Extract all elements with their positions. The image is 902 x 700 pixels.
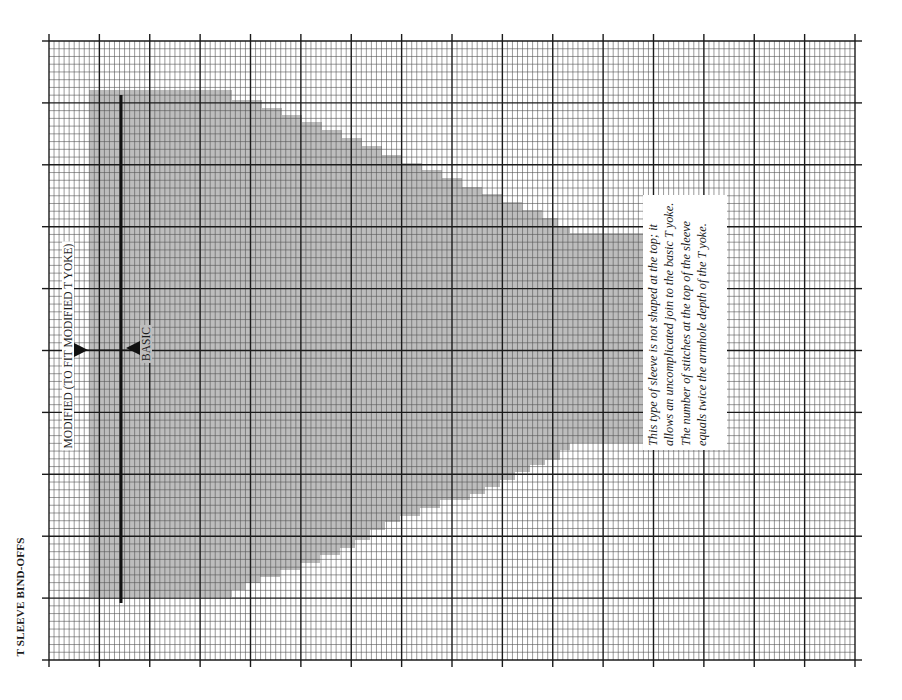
annotation-note: This type of sleeve is not shaped at the… — [643, 195, 727, 450]
modified-label: MODIFIED (TO FIT MODIFIED T YOKE) — [62, 242, 74, 451]
basic-label: BASIC — [140, 325, 152, 363]
modified-marker-triangle-icon — [74, 343, 88, 357]
chart-title: T SLEEVE BIND-OFFS — [14, 538, 26, 657]
graph-paper-chart — [0, 0, 902, 700]
